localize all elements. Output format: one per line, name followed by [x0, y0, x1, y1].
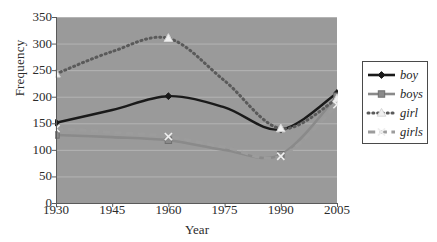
x-axis-tick-labels: 193019451960197519902005: [0, 203, 437, 221]
legend-symbol-square-icon: [366, 87, 397, 101]
y-tick-label: 100: [22, 144, 52, 156]
x-tick-label: 1945: [88, 203, 136, 216]
legend-label: girl: [397, 106, 418, 121]
legend-symbol-cross-icon: [366, 125, 397, 139]
legend-item-boy[interactable]: boy: [366, 65, 428, 85]
legend-item-boys[interactable]: boys: [366, 84, 428, 104]
x-tick-label: 1975: [201, 203, 249, 216]
data-point-square: [378, 91, 384, 97]
x-axis-title: Year: [56, 222, 338, 238]
y-tick-label: 50: [22, 170, 52, 182]
legend-label: girls: [397, 125, 423, 140]
legend-label: boys: [397, 87, 423, 102]
x-tick-label: 1960: [144, 203, 192, 216]
x-tick-label: 2005: [313, 203, 361, 216]
y-axis-title: Frequency: [12, 18, 28, 118]
y-tick-label: 150: [22, 117, 52, 129]
line-chart: 050100150200250300350 193019451960197519…: [0, 0, 437, 242]
plot-background: [56, 17, 337, 203]
legend-item-girls[interactable]: girls: [366, 122, 428, 142]
legend-item-girl[interactable]: girl: [366, 103, 428, 123]
data-point-diamond: [378, 72, 385, 79]
legend-symbol-triangle-icon: [366, 106, 397, 120]
x-tick-label: 1930: [32, 203, 80, 216]
chart-legend[interactable]: boyboysgirlgirls: [362, 61, 428, 144]
legend-symbol-diamond-icon: [366, 68, 397, 82]
x-tick-label: 1990: [257, 203, 305, 216]
legend-label: boy: [397, 68, 418, 83]
